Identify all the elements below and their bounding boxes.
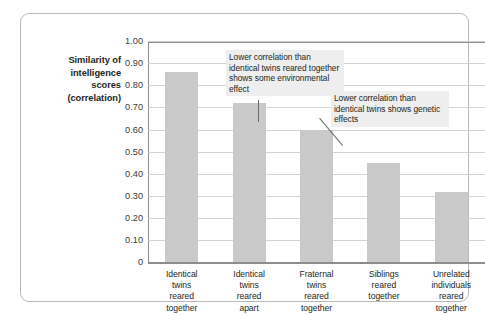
y-axis-title-line: Similarity of <box>43 54 121 67</box>
x-axis-category-label-line: twins <box>148 280 215 291</box>
x-axis-category-label-line: individuals <box>418 280 485 291</box>
x-axis-category-label-line: reared <box>283 291 350 302</box>
y-axis-tick-label: 0.60 <box>125 125 143 135</box>
y-axis-title-line: scores <box>43 79 121 92</box>
annotation-leader-line-1 <box>258 100 259 122</box>
y-axis-title-line: (correlation) <box>43 92 121 105</box>
figure: Similarity of intelligence scores (corre… <box>0 0 485 315</box>
chart-frame: Similarity of intelligence scores (corre… <box>20 13 469 302</box>
x-axis-category-label-line: Identical <box>215 269 282 280</box>
x-axis-category-label-line: together <box>283 303 350 314</box>
y-axis-tick-label: 0.90 <box>125 58 143 68</box>
x-axis-category-label: Unrelatedindividualsrearedtogether <box>418 269 485 314</box>
x-axis-category-label-line: Fraternal <box>283 269 350 280</box>
y-axis-tick-label: 0.70 <box>125 102 143 112</box>
x-axis-category-label: Fraternaltwinsrearedtogether <box>283 269 350 314</box>
x-axis-category-label-line: together <box>148 303 215 314</box>
x-axis-baseline <box>148 262 485 264</box>
y-axis-tick-label: 0.50 <box>125 147 143 157</box>
x-axis-category-label-line: twins <box>283 280 350 291</box>
x-axis-category-label: Identicaltwinsrearedtogether <box>148 269 215 314</box>
x-axis-category-label-line: Siblings <box>350 269 417 280</box>
x-axis-category-label-line: apart <box>215 303 282 314</box>
annotation-genetic-effects: Lower correlation than identical twins s… <box>331 91 449 127</box>
bar <box>367 163 400 263</box>
x-axis-category-label-line: reared <box>215 291 282 302</box>
bar <box>165 72 198 262</box>
x-axis-category-label-line: reared <box>148 291 215 302</box>
x-axis-category-label: Identicaltwinsrearedapart <box>215 269 282 314</box>
y-axis-tick-label: 1.00 <box>125 36 143 46</box>
x-axis-category-label-line: twins <box>215 280 282 291</box>
y-axis-tick-label: 0 <box>138 257 143 267</box>
x-axis-category-label-line: Unrelated <box>418 269 485 280</box>
y-axis-tick-label: 0.20 <box>125 213 143 223</box>
x-axis-category-label-line: together <box>350 291 417 302</box>
y-axis-title: Similarity of intelligence scores (corre… <box>43 54 121 104</box>
gridline <box>148 41 485 42</box>
y-axis-tick-label: 0.10 <box>125 235 143 245</box>
y-axis-title-line: intelligence <box>43 67 121 80</box>
x-axis-category-label-line: together <box>418 303 485 314</box>
annotation-environmental-effect: Lower correlation than identical twins r… <box>226 50 344 96</box>
bar <box>233 103 266 262</box>
x-axis-category-label-line: Identical <box>148 269 215 280</box>
bar <box>435 192 468 263</box>
bar <box>300 130 333 263</box>
y-axis-tick-label: 0.40 <box>125 169 143 179</box>
y-axis-tick-label: 0.30 <box>125 191 143 201</box>
x-axis-category-label-line: reared <box>350 280 417 291</box>
y-axis-tick-label: 0.80 <box>125 80 143 90</box>
x-axis-category-label-line: reared <box>418 291 485 302</box>
x-axis-category-label: Siblingsrearedtogether <box>350 269 417 303</box>
